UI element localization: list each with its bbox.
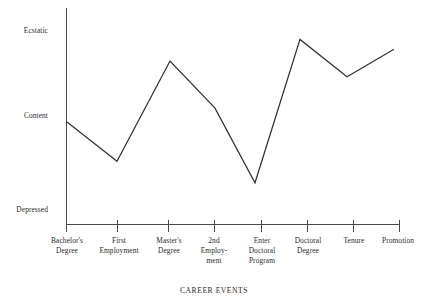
x-axis-label-2nd-employment: 2nd Employ- ment	[201, 236, 228, 267]
y-axis-label-depressed: Depressed	[16, 205, 48, 214]
x-axis-label-enter-doctoral-program: Enter Doctoral Program	[249, 236, 276, 267]
data-series-line	[67, 39, 394, 182]
y-axis-label-ecstatic: Ecstatic	[24, 26, 48, 35]
x-axis-label-tenure: Tenure	[343, 236, 364, 246]
y-axis-label-content: Content	[24, 111, 48, 120]
x-axis-label-first-employment: First Employment	[99, 236, 138, 256]
x-axis-ticks	[67, 220, 400, 232]
career-events-line-chart: Ecstatic Content Depressed Bachelor's De…	[0, 0, 428, 306]
x-axis-label-doctoral-degree: Doctoral Degree	[295, 236, 322, 256]
x-axis-label-bachelors-degree: Bachelor's Degree	[51, 236, 83, 256]
x-axis-label-masters-degree: Master's Degree	[156, 236, 182, 256]
x-axis-label-promotion: Promotion	[382, 236, 414, 246]
x-axis-title: CAREER EVENTS	[0, 286, 428, 295]
